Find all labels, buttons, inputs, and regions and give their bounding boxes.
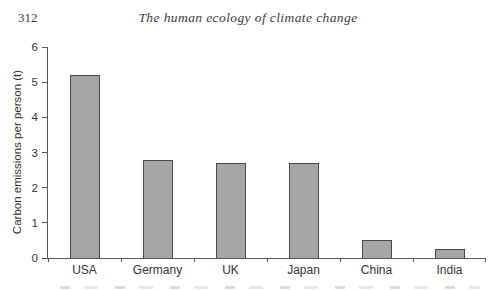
x-axis-tick-mark <box>121 258 122 262</box>
x-axis-category-label: India <box>413 263 486 277</box>
y-axis-tick-mark <box>42 47 47 48</box>
y-axis-tick-label: 5 <box>14 76 38 88</box>
x-axis-tick-mark <box>48 258 49 262</box>
bar-india <box>435 249 465 258</box>
book-page: 312 The human ecology of climate change … <box>0 0 496 290</box>
bar-usa <box>70 75 100 258</box>
y-axis-tick-mark <box>42 82 47 83</box>
y-axis-tick-mark <box>42 222 47 223</box>
page-header: 312 The human ecology of climate change <box>0 10 496 30</box>
y-axis-tick-mark <box>42 117 47 118</box>
y-axis-tick-mark <box>42 187 47 188</box>
x-axis-tick-mark <box>267 258 268 262</box>
bar-germany <box>143 160 173 258</box>
cropped-caption-fragment <box>60 286 480 289</box>
y-axis-tick-label: 3 <box>14 147 38 159</box>
y-axis-tick-label: 4 <box>14 111 38 123</box>
x-axis-category-label: China <box>340 263 413 277</box>
x-axis-category-label: UK <box>194 263 267 277</box>
running-title: The human ecology of climate change <box>0 10 496 26</box>
x-axis-category-label: USA <box>48 263 121 277</box>
bar-japan <box>289 163 319 258</box>
plot-area: 0123456USAGermanyUKJapanChinaIndia <box>47 47 486 259</box>
y-axis-tick-mark <box>42 258 47 259</box>
bar-uk <box>216 163 246 258</box>
x-axis-tick-mark <box>340 258 341 262</box>
x-axis-category-label: Germany <box>121 263 194 277</box>
bar-china <box>362 240 392 258</box>
x-axis-tick-mark <box>194 258 195 262</box>
y-axis-tick-label: 2 <box>14 182 38 194</box>
y-axis-tick-label: 6 <box>14 41 38 53</box>
y-axis-tick-mark <box>42 152 47 153</box>
x-axis-tick-mark <box>485 258 486 262</box>
y-axis-tick-label: 0 <box>14 252 38 264</box>
x-axis-tick-mark <box>413 258 414 262</box>
x-axis-category-label: Japan <box>267 263 340 277</box>
y-axis-tick-label: 1 <box>14 217 38 229</box>
